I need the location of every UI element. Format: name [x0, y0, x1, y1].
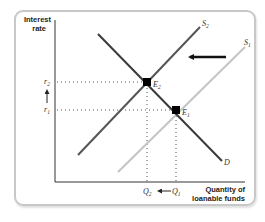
equilibrium-point-e1 [172, 106, 180, 114]
supply-curve-s2 [78, 27, 200, 155]
r2-label: r2 [44, 77, 50, 87]
x-axis-label-line2: loanable funds [192, 194, 245, 203]
d-label: D [223, 158, 230, 167]
axes [55, 20, 245, 182]
y-axis-label-line2: rate [32, 24, 46, 33]
x-axis-label-line1: Quantity of [205, 185, 245, 194]
e1-label: E1 [181, 108, 190, 118]
demand-curve [98, 34, 222, 161]
equilibrium-point-e2 [143, 78, 151, 86]
s1-label: S1 [244, 38, 251, 48]
s2-label: S2 [202, 19, 209, 29]
q1-label: Q1 [172, 187, 181, 197]
q2-label: Q2 [143, 187, 152, 197]
e2-label: E2 [152, 80, 161, 90]
y-axis-label-line1: Interest [24, 15, 52, 24]
loanable-funds-diagram: Interest rate Quantity of loanable funds… [0, 0, 265, 222]
r1-label: r1 [44, 105, 50, 115]
